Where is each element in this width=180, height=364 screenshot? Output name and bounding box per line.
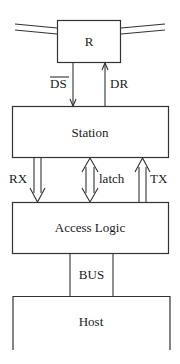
edge-rx-label: RX — [9, 171, 28, 186]
edge-ds: DS — [50, 63, 76, 106]
node-station: Station — [13, 107, 169, 158]
edge-latch-label: latch — [99, 171, 125, 186]
edge-tx-label: TX — [150, 171, 168, 186]
node-r: R — [58, 21, 121, 63]
node-host: Host — [13, 297, 170, 351]
ring-line-left — [15, 24, 57, 34]
edge-ds-label: DS — [50, 76, 67, 91]
ring-line-right — [121, 24, 165, 34]
node-r-label: R — [85, 34, 94, 49]
node-bus: BUS — [70, 254, 113, 296]
block-diagram: R DS DR Station RX latch TX — [0, 0, 180, 364]
edge-dr-label: DR — [110, 76, 128, 91]
node-station-label: Station — [72, 125, 109, 140]
edge-dr: DR — [102, 63, 128, 106]
node-bus-label: BUS — [79, 267, 104, 282]
edge-rx: RX — [9, 158, 45, 202]
node-access-logic-label: Access Logic — [55, 220, 126, 235]
edge-latch: latch — [82, 158, 125, 202]
edge-tx: TX — [135, 158, 168, 202]
node-host-label: Host — [79, 314, 104, 329]
node-access-logic: Access Logic — [13, 203, 169, 254]
